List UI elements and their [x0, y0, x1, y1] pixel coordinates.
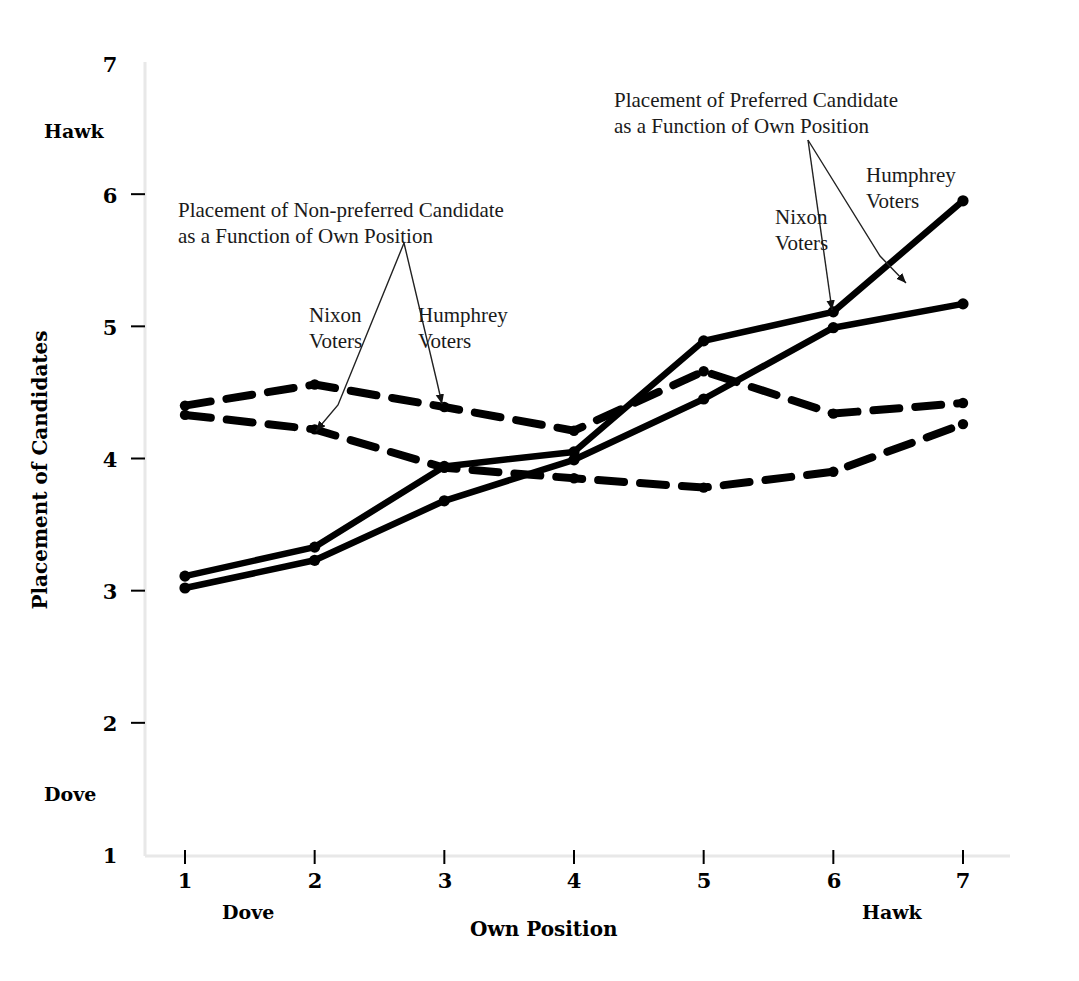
x-axis-pole-hawk: Hawk [862, 901, 922, 923]
data-point [828, 467, 838, 477]
y-axis-pole-hawk: Hawk [44, 120, 104, 142]
annotation-nixon-voters-left: Nixon Voters [309, 303, 362, 354]
data-point [439, 402, 449, 412]
x-tick-label-3: 3 [430, 868, 460, 893]
series-line-2 [185, 371, 963, 430]
data-point [439, 463, 449, 473]
y-tick-label-5: 5 [95, 315, 125, 340]
x-tick-label-5: 5 [689, 868, 719, 893]
data-point [699, 366, 709, 376]
data-point [439, 495, 450, 506]
data-point [957, 195, 968, 206]
annotation-humphrey-voters-left: Humphrey Voters [418, 303, 508, 354]
data-series-layer [185, 201, 963, 588]
data-point [698, 335, 709, 346]
data-point [180, 400, 190, 410]
annotation-preferred: Placement of Preferred Candidate as a Fu… [614, 88, 898, 139]
y-tick-label-6: 6 [95, 183, 125, 208]
data-point [310, 424, 320, 434]
data-point [309, 555, 320, 566]
data-point [828, 322, 839, 333]
x-tick-label-6: 6 [819, 868, 849, 893]
data-point [957, 298, 968, 309]
y-tick-label-2: 2 [95, 711, 125, 736]
series-line-1 [185, 304, 963, 588]
data-point [309, 542, 320, 553]
data-point [179, 571, 190, 582]
annotation-non-preferred: Placement of Non-preferred Candidate as … [178, 198, 504, 249]
annotation-nixon-voters-right: Nixon Voters [775, 205, 828, 256]
x-tick-label-2: 2 [300, 868, 330, 893]
x-axis-title: Own Position [470, 917, 618, 941]
figure-canvas: 7 6 5 4 3 2 1 Hawk Dove Placement of Can… [0, 0, 1079, 981]
data-point [569, 473, 579, 483]
x-axis-pole-dove: Dove [222, 901, 274, 923]
x-tick-label-7: 7 [948, 868, 978, 893]
data-point [828, 408, 838, 418]
x-tick-label-4: 4 [559, 868, 589, 893]
data-point [568, 454, 579, 465]
chart-plot-area [0, 0, 1079, 981]
series-line-0 [185, 201, 963, 576]
data-point [698, 393, 709, 404]
data-point [828, 306, 839, 317]
x-tick-label-1: 1 [170, 868, 200, 893]
y-tick-label-1: 1 [95, 843, 125, 868]
data-point [699, 482, 709, 492]
data-point [179, 582, 190, 593]
y-tick-label-4: 4 [95, 447, 125, 472]
data-point [569, 426, 579, 436]
annotation-humphrey-voters-right: Humphrey Voters [866, 163, 956, 214]
y-axis-ticks [131, 194, 145, 723]
data-point [958, 419, 968, 429]
y-tick-label-3: 3 [95, 579, 125, 604]
y-axis-pole-dove: Dove [44, 783, 96, 805]
data-point [310, 379, 320, 389]
y-tick-label-7: 7 [95, 52, 125, 77]
data-point-markers [179, 195, 968, 593]
data-point [180, 410, 190, 420]
annotation-leader-lines [316, 140, 906, 431]
data-point [958, 398, 968, 408]
y-axis-title: Placement of Candidates [28, 330, 52, 609]
